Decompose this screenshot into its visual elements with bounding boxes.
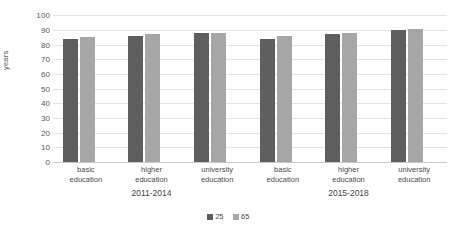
category-label-line1: university bbox=[191, 165, 243, 175]
y-axis-tick-label: 70 bbox=[26, 55, 50, 64]
category-label-line1: basic bbox=[60, 165, 112, 175]
y-axis-tick-label: 0 bbox=[26, 158, 50, 167]
bar-cluster bbox=[63, 15, 109, 162]
y-axis-tick-label: 40 bbox=[26, 99, 50, 108]
y-axis-tick-label: 90 bbox=[26, 25, 50, 34]
bar-series-65 bbox=[408, 29, 423, 162]
bar-series-65 bbox=[80, 37, 95, 162]
plot-area bbox=[53, 15, 447, 162]
legend-label: 25 bbox=[215, 212, 223, 221]
legend-swatch-icon bbox=[207, 214, 213, 220]
bar-chart: years 1009080706050403020100 basiceducat… bbox=[0, 0, 456, 233]
y-axis-tick-label: 50 bbox=[26, 84, 50, 93]
bar-cluster bbox=[260, 15, 306, 162]
bar-cluster bbox=[325, 15, 371, 162]
y-axis-tick-label: 100 bbox=[26, 11, 50, 20]
y-axis-tick-label: 60 bbox=[26, 69, 50, 78]
bar-series-25 bbox=[391, 30, 406, 162]
legend-item-25[interactable]: 25 bbox=[207, 212, 224, 221]
bar-series-65 bbox=[211, 33, 226, 162]
bar-series-25 bbox=[260, 39, 275, 162]
legend-swatch-icon bbox=[233, 214, 239, 220]
legend-item-65[interactable]: 65 bbox=[233, 212, 250, 221]
legend-label: 65 bbox=[241, 212, 249, 221]
gridline bbox=[53, 162, 447, 163]
category-label-line2: education bbox=[191, 175, 243, 185]
legend: 2565 bbox=[0, 212, 456, 221]
category-label-line1: basic bbox=[257, 165, 309, 175]
bar-series-25 bbox=[63, 39, 78, 162]
bar-series-25 bbox=[194, 33, 209, 162]
bar-series-65 bbox=[342, 33, 357, 162]
period-label: 2015-2018 bbox=[250, 188, 447, 202]
period-label: 2011-2014 bbox=[53, 188, 250, 202]
bar-cluster bbox=[391, 15, 437, 162]
category-label-line2: education bbox=[257, 175, 309, 185]
bar-series-25 bbox=[325, 34, 340, 162]
bar-groups bbox=[53, 15, 447, 162]
y-axis-tick-label: 10 bbox=[26, 143, 50, 152]
y-axis-tick-label: 20 bbox=[26, 128, 50, 137]
bar-group-2011-2014 bbox=[53, 15, 250, 162]
category-label-line2: education bbox=[60, 175, 112, 185]
bar-cluster bbox=[128, 15, 174, 162]
category-label-line2: education bbox=[125, 175, 177, 185]
bar-cluster bbox=[194, 15, 240, 162]
category-label-line2: education bbox=[388, 175, 440, 185]
category-label-line1: higher bbox=[125, 165, 177, 175]
bar-series-25 bbox=[128, 36, 143, 162]
y-axis-ticks: 1009080706050403020100 bbox=[26, 12, 50, 164]
period-labels: 2011-20142015-2018 bbox=[53, 188, 447, 202]
category-label-line1: higher bbox=[322, 165, 374, 175]
y-axis-tick-label: 30 bbox=[26, 113, 50, 122]
bar-group-2015-2018 bbox=[250, 15, 447, 162]
bar-series-65 bbox=[277, 36, 292, 162]
y-axis-tick-label: 80 bbox=[26, 40, 50, 49]
category-label-line2: education bbox=[322, 175, 374, 185]
y-axis-title: years bbox=[1, 51, 10, 70]
bar-series-65 bbox=[145, 34, 160, 162]
category-label-line1: university bbox=[388, 165, 440, 175]
